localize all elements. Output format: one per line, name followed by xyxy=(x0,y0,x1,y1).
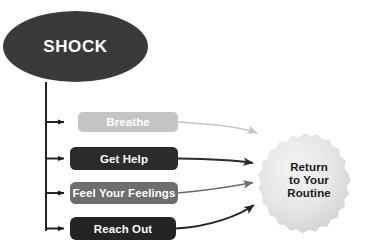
outcome-node-starburst xyxy=(258,133,351,233)
step-node-breathe xyxy=(78,112,178,132)
arrow-feel-your-feelings-to-outcome xyxy=(178,183,253,194)
shock-node xyxy=(3,11,148,82)
arrow-reach-out-to-outcome xyxy=(176,205,254,229)
step-node-feel-your-feelings xyxy=(70,182,178,204)
step-node-reach-out xyxy=(70,217,176,240)
diagram-root: SHOCK Breathe Get Help Feel Your Feeling… xyxy=(0,0,371,251)
step-node-get-help xyxy=(70,147,178,170)
arrow-breathe-to-outcome xyxy=(178,122,257,133)
diagram-canvas xyxy=(0,0,371,251)
arrow-get-help-to-outcome xyxy=(178,159,253,164)
connector-spine xyxy=(46,82,64,231)
